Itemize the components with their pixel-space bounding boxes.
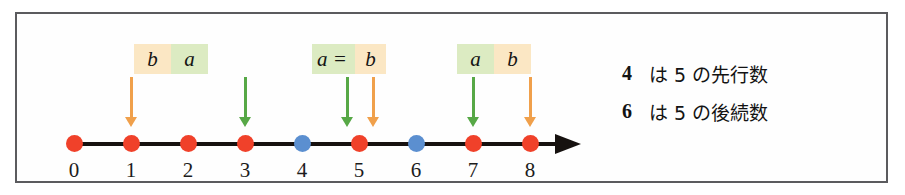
number-line-dot-1	[123, 135, 140, 152]
legend-row-predecessor: 4 は 5 の先行数	[614, 58, 768, 88]
tick-label-4: 4	[282, 158, 322, 183]
annotation-arrow-to-1	[125, 77, 138, 127]
variable-cell-a-equals: a =	[312, 44, 355, 74]
number-line-dot-4	[294, 135, 311, 152]
annotation-arrow-to-5-green	[341, 77, 354, 127]
tick-label-1: 1	[111, 158, 151, 183]
legend-number-4: 4	[614, 62, 640, 85]
arrow-shaft	[130, 77, 133, 117]
arrow-head-icon	[239, 117, 251, 127]
arrow-head-icon	[125, 117, 137, 127]
tick-label-0: 0	[54, 158, 94, 183]
tick-label-5: 5	[339, 158, 379, 183]
tick-label-8: 8	[510, 158, 550, 183]
tick-label-7: 7	[453, 158, 493, 183]
annotation-arrow-to-8	[524, 77, 537, 127]
number-line-axis	[74, 142, 559, 146]
variable-cell-b: b	[134, 44, 171, 74]
arrow-shaft	[372, 77, 375, 117]
number-line-arrowhead-icon	[555, 134, 581, 154]
arrow-shaft	[529, 77, 532, 117]
number-line-dot-5	[351, 135, 368, 152]
legend-row-successor: 6 は 5 の後続数	[614, 96, 768, 126]
number-line-dot-2	[180, 135, 197, 152]
number-line-dot-0	[66, 135, 83, 152]
arrow-shaft	[472, 77, 475, 117]
tick-label-3: 3	[225, 158, 265, 183]
variable-cell-b: b	[494, 44, 531, 74]
arrow-head-icon	[367, 117, 379, 127]
legend-number-6: 6	[614, 100, 640, 123]
legend-text-predecessor: は 5 の先行数	[649, 60, 768, 87]
variable-box-b-a: b a	[134, 44, 208, 74]
arrow-head-icon	[524, 117, 536, 127]
variable-cell-b: b	[355, 44, 386, 74]
variable-box-a-b: a b	[457, 44, 531, 74]
annotation-arrow-to-5-orange	[367, 77, 380, 127]
variable-cell-a: a	[171, 44, 208, 74]
arrow-shaft	[244, 77, 247, 117]
arrow-head-icon	[341, 117, 353, 127]
annotation-arrow-to-3	[239, 77, 252, 127]
number-line-dot-8	[522, 135, 539, 152]
variable-cell-a: a	[457, 44, 494, 74]
figure-frame: 0 1 2 3 4 5 6 7 8	[15, 12, 888, 183]
arrow-head-icon	[467, 117, 479, 127]
number-line-dot-6	[408, 135, 425, 152]
tick-label-6: 6	[396, 158, 436, 183]
arrow-shaft	[346, 77, 349, 117]
number-line-figure: 0 1 2 3 4 5 6 7 8	[0, 0, 905, 195]
tick-label-2: 2	[168, 158, 208, 183]
number-line-dot-3	[237, 135, 254, 152]
legend-text-successor: は 5 の後続数	[649, 98, 768, 125]
annotation-arrow-to-7	[467, 77, 480, 127]
number-line-dot-7	[465, 135, 482, 152]
variable-box-a-equals-b: a = b	[312, 44, 386, 74]
